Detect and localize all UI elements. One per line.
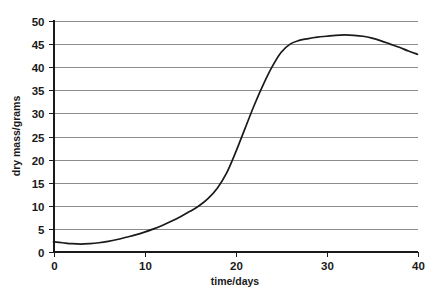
y-tick-label: 20 <box>32 155 45 167</box>
y-axis-title: dry mass/grams <box>10 96 22 177</box>
line-chart: 05101520253035404550 010203040 time/days… <box>0 0 439 296</box>
x-tick-label: 0 <box>51 260 57 272</box>
x-tick-label: 30 <box>321 260 334 272</box>
x-tick-label: 20 <box>230 260 243 272</box>
y-tick-label: 35 <box>32 85 45 97</box>
y-tick-label: 15 <box>32 178 45 190</box>
x-axis-title: time/days <box>211 275 260 287</box>
y-tick-label: 40 <box>32 62 45 74</box>
y-tick-label: 45 <box>32 39 45 51</box>
x-tick-label: 10 <box>139 260 152 272</box>
y-tick-label: 0 <box>38 247 44 259</box>
x-tick-label: 40 <box>412 260 425 272</box>
y-tick-label: 10 <box>32 201 45 213</box>
y-tick-label: 5 <box>38 224 45 236</box>
y-tick-label: 30 <box>32 108 45 120</box>
y-tick-label: 50 <box>32 16 45 28</box>
chart-figure: 05101520253035404550 010203040 time/days… <box>0 0 439 296</box>
y-tick-label: 25 <box>32 132 45 144</box>
